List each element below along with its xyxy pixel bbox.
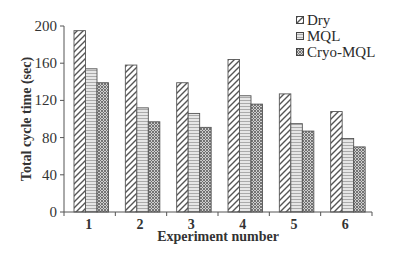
y-tick-label: 0 bbox=[50, 204, 58, 220]
bar-mql-2 bbox=[137, 108, 149, 212]
bar-cryo-mql-6 bbox=[354, 147, 366, 212]
bar-cryo-mql-4 bbox=[251, 104, 263, 212]
bar-dry-5 bbox=[279, 94, 291, 212]
y-tick-label: 200 bbox=[35, 18, 58, 34]
bar-cryo-mql-5 bbox=[302, 131, 314, 212]
x-axis-label: Experiment number bbox=[157, 229, 279, 245]
mql-swatch-icon bbox=[296, 32, 304, 40]
legend-label: MQL bbox=[307, 28, 340, 44]
bar-dry-2 bbox=[125, 65, 137, 212]
y-tick-label: 40 bbox=[42, 167, 57, 183]
legend-item-cryo-mql: Cryo-MQL bbox=[296, 44, 375, 60]
x-tick-label: 5 bbox=[291, 217, 298, 232]
cryo-mql-swatch-icon bbox=[296, 48, 304, 56]
y-tick-label: 120 bbox=[35, 92, 58, 108]
bar-cryo-mql-3 bbox=[200, 127, 212, 212]
legend-item-mql: MQL bbox=[296, 28, 375, 44]
bar-dry-1 bbox=[74, 31, 86, 212]
y-tick-label: 80 bbox=[42, 130, 57, 146]
legend: Dry MQL Cryo-MQL bbox=[296, 12, 375, 60]
bar-mql-6 bbox=[342, 139, 354, 212]
bar-mql-1 bbox=[86, 69, 98, 212]
x-tick-label: 2 bbox=[137, 217, 144, 232]
bar-mql-4 bbox=[240, 96, 252, 212]
y-axis-label: Total cycle time (sec) bbox=[19, 57, 35, 181]
legend-item-dry: Dry bbox=[296, 12, 375, 28]
bar-dry-3 bbox=[177, 83, 189, 212]
bar-cryo-mql-2 bbox=[148, 122, 160, 212]
legend-label: Dry bbox=[307, 12, 330, 28]
bar-dry-4 bbox=[228, 59, 240, 212]
legend-label: Cryo-MQL bbox=[307, 44, 375, 60]
y-tick-label: 160 bbox=[35, 55, 58, 71]
x-tick-label: 6 bbox=[342, 217, 349, 232]
bar-cryo-mql-1 bbox=[97, 83, 109, 212]
x-tick-label: 1 bbox=[85, 217, 92, 232]
dry-swatch-icon bbox=[296, 16, 304, 24]
bar-mql-3 bbox=[188, 113, 200, 212]
bar-mql-5 bbox=[291, 124, 303, 212]
bar-dry-6 bbox=[331, 112, 343, 212]
